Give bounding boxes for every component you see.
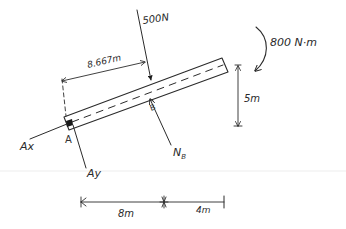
normal-reaction-b: B NB [149,99,187,161]
nb-label-main: N [173,146,181,159]
height-label: 5m [244,93,260,104]
height-dimension: 5m [234,65,260,126]
free-body-diagram: A Ax Ay 8.667m 500N B NB 5m 800 N·m [0,0,346,229]
point-a-marker [66,119,73,127]
horizontal-dimensions: 8m 4m [81,196,224,219]
ay-label: Ay [86,167,102,180]
horizontal-ab-label: 8m [118,208,134,219]
point-a-label: A [65,134,72,145]
ax-reaction-line [30,124,67,139]
load-distance-label: 8.667m [86,52,122,70]
ay-reaction-line [73,125,86,168]
horizontal-b-end-label: 4m [196,205,211,215]
nb-label-subscript: B [181,153,186,161]
nb-label: NB [173,146,186,161]
dim-mid-tick [160,196,168,208]
moment-label: 800 N·m [270,36,317,49]
ax-label: Ax [19,140,35,153]
point-load-500n: 500N [137,10,170,80]
moment-800nm: 800 N·m [255,27,317,71]
point-load-label: 500N [142,11,170,26]
point-b-label: B [149,103,157,113]
